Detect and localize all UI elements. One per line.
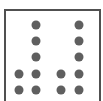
dot: [57, 70, 66, 79]
dot: [32, 70, 41, 79]
dot: [75, 86, 84, 95]
dot: [32, 21, 41, 30]
dot: [57, 86, 66, 95]
dot: [15, 70, 24, 79]
dot: [75, 70, 84, 79]
dot: [32, 53, 41, 62]
dot: [15, 86, 24, 95]
dot: [75, 21, 84, 30]
dot: [75, 37, 84, 46]
dot: [75, 53, 84, 62]
dot: [32, 37, 41, 46]
dot: [32, 86, 41, 95]
